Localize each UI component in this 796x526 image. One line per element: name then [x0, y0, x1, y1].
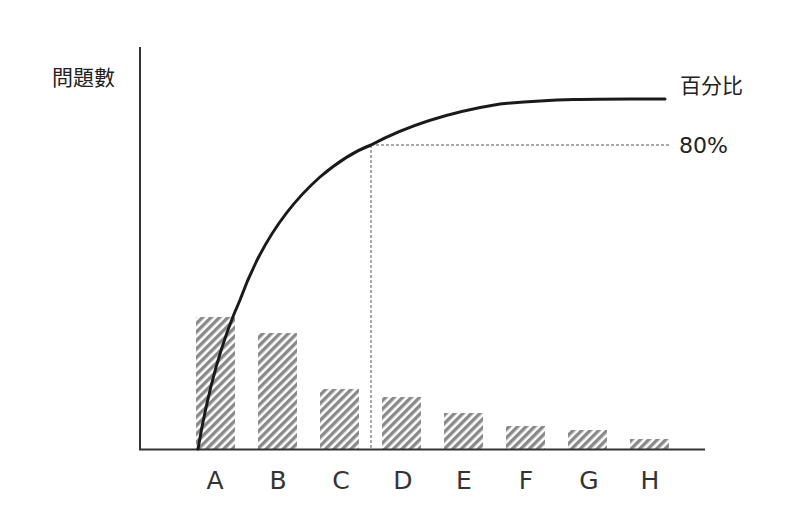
bar-series: [196, 317, 669, 449]
bar-D: [382, 397, 421, 449]
x-tick-label: H: [630, 466, 670, 495]
bar-C: [320, 389, 359, 449]
x-tick-label: E: [444, 466, 484, 495]
x-tick-label: B: [258, 466, 298, 495]
x-tick-label: G: [569, 466, 609, 495]
x-tick-label: A: [195, 466, 235, 495]
x-tick-label: C: [321, 466, 361, 495]
x-tick-label: F: [506, 466, 546, 495]
x-tick-label: D: [383, 466, 423, 495]
bar-F: [506, 426, 545, 449]
y-axis-label: 問題數: [52, 61, 115, 91]
reference-80-label: 80%: [679, 133, 728, 158]
bar-G: [568, 430, 607, 449]
bar-H: [630, 439, 669, 449]
pareto-chart: [0, 0, 796, 526]
bar-E: [444, 413, 483, 449]
bar-B: [258, 333, 297, 449]
curve-label: 百分比: [680, 69, 743, 99]
